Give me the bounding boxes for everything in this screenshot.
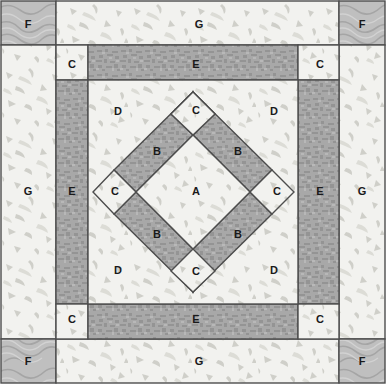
label-E-bottom: E <box>192 313 199 325</box>
label-D-bottom-left: D <box>114 264 122 276</box>
label-G-right: G <box>358 185 367 197</box>
label-B-top-left: B <box>153 145 161 157</box>
label-C-inner-top-right: C <box>316 58 324 70</box>
label-F-top-right: F <box>359 18 366 30</box>
label-B-bottom-left: B <box>153 228 161 240</box>
label-F-bottom-right: F <box>359 355 366 367</box>
label-D-top-left: D <box>114 105 122 117</box>
label-F-bottom-left: F <box>25 355 32 367</box>
label-F-top-left: F <box>25 18 32 30</box>
label-C-diamond-bottom: C <box>192 265 200 277</box>
quilt-block-diagram: F F F F G G G G C C C C E E E E D D D D … <box>0 0 386 384</box>
label-C-diamond-right: C <box>273 185 281 197</box>
label-E-right: E <box>316 185 323 197</box>
label-B-top-right: B <box>234 145 242 157</box>
label-G-left: G <box>24 185 33 197</box>
label-C-diamond-top: C <box>192 104 200 116</box>
label-C-inner-bottom-right: C <box>316 313 324 325</box>
label-A-center: A <box>192 185 200 197</box>
label-G-top: G <box>195 18 204 30</box>
label-E-top: E <box>192 58 199 70</box>
label-C-diamond-left: C <box>111 185 119 197</box>
label-E-left: E <box>68 185 75 197</box>
label-D-top-right: D <box>270 105 278 117</box>
label-B-bottom-right: B <box>234 228 242 240</box>
label-C-inner-bottom-left: C <box>68 313 76 325</box>
label-C-inner-top-left: C <box>68 58 76 70</box>
label-D-bottom-right: D <box>270 264 278 276</box>
label-G-bottom: G <box>195 355 204 367</box>
